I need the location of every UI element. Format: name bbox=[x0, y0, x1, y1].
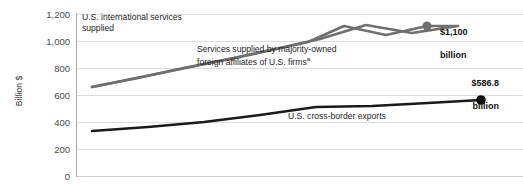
y-tick-1200: 1,200 bbox=[24, 10, 70, 20]
callout-lower: $586.8 billion bbox=[443, 67, 499, 123]
y-tick-200: 200 bbox=[24, 145, 70, 155]
y-tick-600: 600 bbox=[24, 91, 70, 101]
callout-lower-value: $586.8 bbox=[443, 78, 499, 89]
y-tick-400: 400 bbox=[24, 118, 70, 128]
chart-container: Billion $ 1,200 1,000 800 600 400 200 0 bbox=[0, 0, 523, 194]
y-tick-800: 800 bbox=[24, 64, 70, 74]
callout-upper: $1,100 billion bbox=[440, 16, 468, 72]
chart-title-note: U.S. international services supplied bbox=[82, 12, 182, 33]
series-label-affiliates-text: Services supplied by majority-owned fore… bbox=[197, 44, 336, 67]
series-label-affiliates: Services supplied by majority-owned fore… bbox=[197, 44, 336, 67]
callout-lower-unit: billion bbox=[443, 101, 499, 112]
footnote-marker: a bbox=[307, 55, 310, 62]
series-label-exports: U.S. cross-border exports bbox=[288, 111, 386, 122]
callout-upper-value: $1,100 bbox=[440, 27, 468, 38]
y-tick-0: 0 bbox=[24, 172, 70, 182]
endpoint-marker-affiliates bbox=[422, 21, 431, 30]
y-tick-1000: 1,000 bbox=[24, 37, 70, 47]
callout-upper-unit: billion bbox=[440, 50, 468, 61]
y-axis-tick-labels: 1,200 1,000 800 600 400 200 0 bbox=[24, 0, 70, 194]
y-axis-title: Billion $ bbox=[14, 51, 24, 131]
